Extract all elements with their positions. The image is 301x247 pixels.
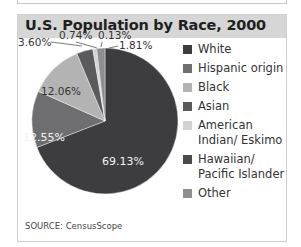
legend-label: American Indian/ Eskimo xyxy=(198,118,288,148)
legend-label: Hawaiian/ Pacific Islander xyxy=(198,152,288,182)
label-white: 69.13% xyxy=(102,155,144,168)
legend-swatch-icon xyxy=(183,83,192,92)
pie-slices xyxy=(32,48,178,194)
legend-item-black: Black xyxy=(183,80,288,95)
legend-swatch-icon xyxy=(183,121,192,130)
legend-label: White xyxy=(198,42,231,57)
label-black: 12.06% xyxy=(41,85,81,97)
legend-label: Hispanic origin xyxy=(198,61,283,76)
legend-swatch-icon xyxy=(183,155,192,164)
legend-label: Other xyxy=(198,186,231,201)
legend-item-other: Other xyxy=(183,186,288,201)
label-other: 1.81% xyxy=(119,39,152,51)
source-note: SOURCE: CensusScope xyxy=(25,221,122,231)
leader-lines xyxy=(51,42,118,48)
label-asian: 3.60% xyxy=(18,36,51,48)
label-american-indian: 0.74% xyxy=(59,29,92,41)
chart-panel: U.S. Population by Race, 2000 3.60% 0.74… xyxy=(17,14,287,242)
legend-swatch-icon xyxy=(183,64,192,73)
legend-item-hispanic: Hispanic origin xyxy=(183,61,288,76)
legend-label: Asian xyxy=(198,99,229,114)
legend-item-american-indian: American Indian/ Eskimo xyxy=(183,118,288,148)
legend-swatch-icon xyxy=(183,45,192,54)
label-hispanic: 12.55% xyxy=(23,131,65,144)
legend-label: Black xyxy=(198,80,229,95)
legend-swatch-icon xyxy=(183,189,192,198)
legend-item-hawaiian: Hawaiian/ Pacific Islander xyxy=(183,152,288,182)
legend-item-asian: Asian xyxy=(183,99,288,114)
legend-swatch-icon xyxy=(183,102,192,111)
legend: White Hispanic origin Black Asian Americ… xyxy=(183,42,288,205)
previous-panel-border xyxy=(17,0,287,4)
legend-item-white: White xyxy=(183,42,288,57)
